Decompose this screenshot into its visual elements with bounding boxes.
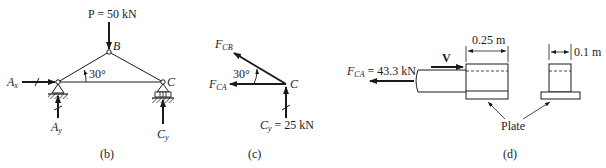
member-end-view [549,64,571,92]
figure-b-truss: P P = 50 kN B C 30° Ax Ay [6,7,176,161]
caption-d: (d) [503,147,517,161]
pin-support-a [52,84,64,93]
plate-leader-left [488,102,505,119]
joint-b [107,50,111,54]
figure-c-joint-fbd: FCB FCA 30° C Cy = 25 kN (c) [208,37,314,161]
fca-label: FCA [208,77,227,92]
caption-b: (b) [100,147,114,161]
plate-end-view [541,92,580,99]
cy-value-label: Cy = 25 kN [260,118,314,133]
shear-v-label: V [442,51,451,65]
plate-label: Plate [501,119,525,133]
member-body [416,70,466,92]
load-p-label-text: P = 50 kN [88,7,137,21]
member-bc [109,52,163,82]
caption-c: (c) [248,147,261,161]
width-dim-label: 0.1 m [574,45,602,59]
plate-leader-right [523,102,550,119]
fca-force-label: FCA = 43.3 kN [346,64,416,79]
truss-figure: P P = 50 kN B C 30° Ax Ay [0,0,606,168]
angle-arc [84,70,86,82]
plate-side-view [466,64,508,99]
joint-c-label: C [167,75,176,89]
length-dim-label: 0.25 m [472,33,506,47]
angle-arc-c [254,69,257,84]
cy-label: Cy [157,127,169,142]
ax-label: Ax [6,75,18,90]
joint-b-label: B [113,39,121,53]
joint-c-label-fbd: C [290,77,299,91]
fcb-label: FCB [214,37,233,52]
angle-label: 30° [89,67,106,81]
figure-d-connection: FCA = 43.3 kN V 0.25 m 0.1 m Plate (d) [346,33,602,161]
ay-label: Ay [50,120,62,135]
angle-label-c: 30° [233,67,250,81]
